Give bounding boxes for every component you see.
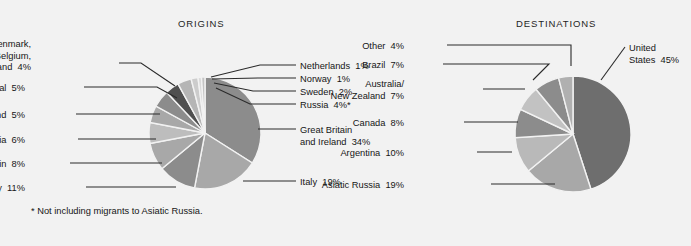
label-germany: Germany 11% xyxy=(0,183,25,195)
pie-chart-destinations xyxy=(515,76,631,192)
label-united-states: United States 45% xyxy=(629,43,679,66)
pie-chart-origins xyxy=(149,77,261,189)
label-finland-group: Finland, Denmark, France, Belgium, Switz… xyxy=(0,39,31,74)
label-netherlands: Netherlands 1% xyxy=(300,61,369,73)
label-austria: Austria 6% xyxy=(0,135,25,147)
infographic-canvas: ORIGINS DESTINATIONS Finland, Denmark, F… xyxy=(0,0,691,246)
chart-title-destinations: DESTINATIONS xyxy=(516,18,596,29)
label-asiatic-russia: Asiatic Russia 19% xyxy=(322,180,404,192)
label-portugal: Portugal 5% xyxy=(0,83,25,95)
label-brazil: Brazil 7% xyxy=(362,60,404,72)
footnote-asiatic-russia: * Not including migrants to Asiatic Russ… xyxy=(31,206,203,216)
label-poland: Poland 5% xyxy=(0,110,25,122)
chart-title-origins: ORIGINS xyxy=(178,18,224,29)
label-canada: Canada 8% xyxy=(353,118,404,130)
label-australia-nz: Australia/ New Zealand 7% xyxy=(331,79,404,102)
label-spain: Spain 8% xyxy=(0,159,25,171)
label-other: Other 4% xyxy=(362,41,404,53)
label-argentina: Argentina 10% xyxy=(340,148,404,160)
